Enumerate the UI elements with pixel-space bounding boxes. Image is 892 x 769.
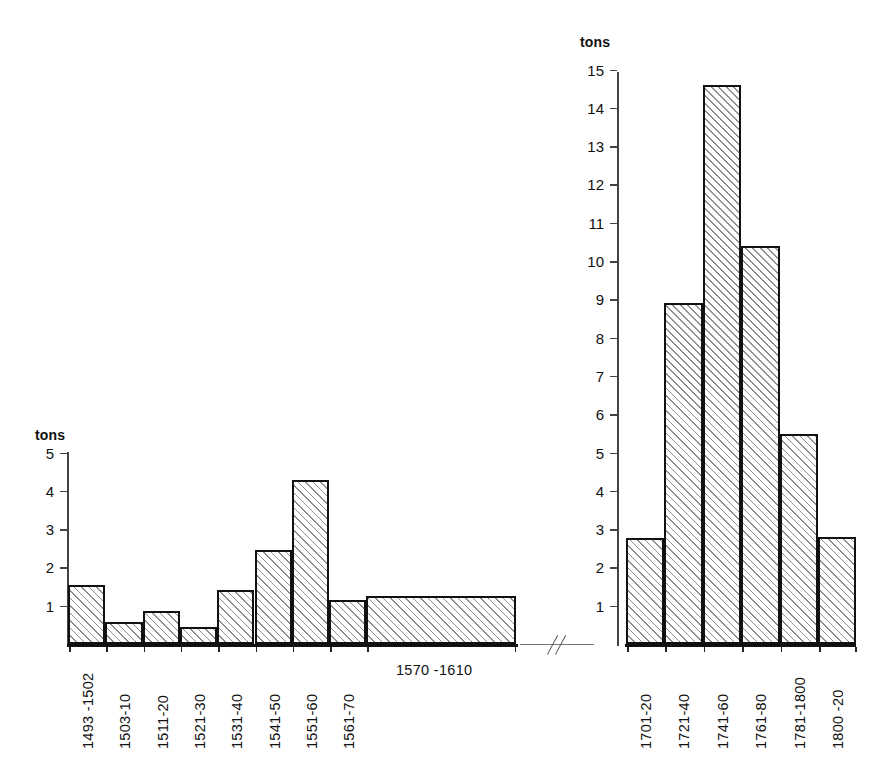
x-axis-tick	[106, 647, 108, 652]
right-chart-panel: tons 151413121110987654321 1701-201721-4…	[560, 0, 892, 769]
x-axis-category-label: 1761-80	[753, 694, 769, 749]
y-axis-tick	[610, 567, 617, 569]
x-axis-category-label: 1551-60	[304, 694, 320, 749]
y-axis-tick	[610, 491, 617, 493]
histogram-bar	[626, 538, 664, 644]
y-axis-tick	[60, 567, 67, 569]
y-axis-tick	[610, 261, 617, 263]
x-axis-tick	[742, 647, 744, 652]
y-axis-tick	[60, 529, 67, 531]
x-axis-category-label: 1570 -1610	[396, 662, 472, 678]
histogram-bar	[105, 622, 142, 644]
x-axis-category-label: 1781-1800	[792, 677, 808, 749]
x-axis-tick	[69, 647, 71, 652]
y-axis-tick	[610, 338, 617, 340]
x-axis-category-label: 1741-60	[715, 694, 731, 749]
y-axis-tick	[610, 223, 617, 225]
y-axis-tick	[610, 146, 617, 148]
y-axis-tick-label: 2	[574, 559, 604, 576]
y-axis-tick-label: 3	[574, 521, 604, 538]
histogram-bar	[818, 537, 856, 644]
y-axis-tick	[610, 376, 617, 378]
x-axis-category-label: 1721-40	[676, 694, 692, 749]
y-axis-tick-label: 5	[574, 444, 604, 461]
x-axis-tick	[665, 647, 667, 652]
y-axis-tick-label: 1	[574, 597, 604, 614]
histogram-bar	[180, 627, 217, 644]
x-axis-category-label: 1531-40	[229, 694, 245, 749]
x-axis-category-label: 1701-20	[638, 694, 654, 749]
y-axis-tick	[610, 184, 617, 186]
x-axis-category-label: 1800 -20	[830, 689, 846, 749]
y-axis-tick	[60, 453, 67, 455]
x-axis-tick	[704, 647, 706, 652]
x-axis-tick	[855, 647, 857, 652]
y-axis-tick-label: 10	[574, 253, 604, 270]
y-axis-tick-label: 12	[574, 176, 604, 193]
histogram-bar	[703, 85, 741, 644]
y-axis-tick	[610, 414, 617, 416]
y-axis-tick	[610, 453, 617, 455]
x-axis-tick	[181, 647, 183, 652]
y-axis-tick-label: 4	[24, 482, 54, 499]
y-axis-tick	[610, 299, 617, 301]
right-y-axis-line	[617, 72, 619, 646]
y-axis-tick	[610, 108, 617, 110]
x-axis-tick	[330, 647, 332, 652]
x-axis-tick	[256, 647, 258, 652]
histogram-figure: tons 54321 1493 -15021503-101511-201521-…	[0, 0, 892, 769]
histogram-bar	[292, 480, 329, 644]
x-axis-tick	[144, 647, 146, 652]
x-axis-tick	[627, 647, 629, 652]
histogram-bar	[143, 611, 180, 644]
right-x-axis-baseline	[625, 644, 856, 647]
y-axis-tick-label: 11	[574, 214, 604, 231]
x-axis-category-label: 1561-70	[341, 694, 357, 749]
histogram-bar	[366, 596, 515, 644]
y-axis-tick	[60, 606, 67, 608]
histogram-bar	[780, 434, 818, 644]
y-axis-tick	[610, 606, 617, 608]
x-axis-category-label: 1503-10	[117, 694, 133, 749]
x-axis-tick	[218, 647, 220, 652]
x-axis-category-label: 1493 -1502	[80, 673, 96, 749]
y-axis-tick-label: 9	[574, 291, 604, 308]
x-axis-tick	[819, 647, 821, 652]
y-axis-tick-label: 4	[574, 482, 604, 499]
left-chart-panel: tons 54321 1493 -15021503-101511-201521-…	[0, 0, 560, 769]
y-axis-tick-label: 5	[24, 444, 54, 461]
y-axis-tick-label: 3	[24, 521, 54, 538]
x-axis-tick	[293, 647, 295, 652]
x-axis-category-label: 1541-50	[267, 694, 283, 749]
y-axis-tick-label: 8	[574, 329, 604, 346]
x-axis-tick	[367, 647, 369, 652]
histogram-bar	[664, 303, 702, 644]
right-y-axis-unit-label: tons	[580, 34, 610, 50]
y-axis-tick-label: 1	[24, 597, 54, 614]
histogram-bar	[741, 246, 779, 644]
y-axis-tick-label: 2	[24, 559, 54, 576]
y-axis-tick-label: 7	[574, 367, 604, 384]
histogram-bar	[329, 600, 366, 644]
y-axis-tick	[60, 491, 67, 493]
y-axis-tick-label: 14	[574, 99, 604, 116]
x-axis-tick	[781, 647, 783, 652]
y-axis-tick-label: 6	[574, 406, 604, 423]
y-axis-tick-label: 15	[574, 61, 604, 78]
y-axis-tick	[610, 70, 617, 72]
histogram-bar	[68, 585, 105, 644]
x-axis-category-label: 1521-30	[192, 694, 208, 749]
y-axis-tick	[610, 529, 617, 531]
x-axis-tick	[515, 647, 517, 652]
y-axis-tick-label: 13	[574, 138, 604, 155]
x-axis-category-label: 1511-20	[155, 695, 171, 749]
left-y-axis-unit-label: tons	[35, 427, 65, 443]
histogram-bar	[217, 590, 254, 644]
histogram-bar	[255, 550, 292, 644]
